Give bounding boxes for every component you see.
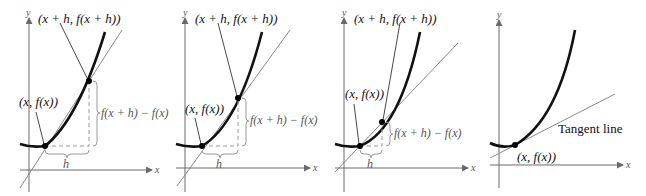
function-curve [176,32,262,147]
lower-point-leader [195,118,201,144]
panel-3: y x (x + h, f(x + h)) (x, f(x)) f(x + h)… [335,7,476,192]
x-axis-label: x [154,164,160,175]
point-label: (x, f(x)) [517,149,556,164]
point-x-plus-h [86,78,92,84]
rise-label: f(x + h) − f(x) [394,126,462,140]
run-label: h [63,157,69,171]
point-x [199,143,205,149]
run-label: h [367,157,373,171]
tangent-line-label: Tangent line [558,121,623,136]
upper-point-label: (x + h, f(x + h)) [354,11,437,26]
point-x-plus-h [379,119,385,125]
upper-point-leader [218,23,237,96]
function-curve [20,32,105,147]
y-axis-label: y [341,7,347,18]
x-axis-label: x [312,162,318,173]
point-x [42,143,48,149]
panel-2: y x (x + h, f(x + h)) (x, f(x)) f(x + h)… [176,7,318,192]
lower-point-label: (x, f(x)) [345,86,384,101]
rise-brace [386,122,393,146]
rise-brace [242,98,249,146]
upper-point-label: (x + h, f(x + h)) [195,11,278,26]
upper-point-label: (x + h, f(x + h)) [38,11,121,26]
y-axis-label: y [182,7,188,18]
y-axis-label: y [496,9,502,20]
run-label: h [216,157,222,171]
rise-brace [93,81,100,146]
point-x [512,142,518,148]
panel-4: y x Tangent line (x, f(x)) [490,9,631,188]
secant-to-tangent-figure: y x (x + h, f(x + h)) (x, f(x)) f(x + h)… [0,0,646,196]
lower-point-leader [354,104,359,144]
lower-point-leader [36,112,44,144]
x-axis-label: x [470,162,476,173]
point-x-plus-h [235,95,241,101]
upper-point-leader [60,23,88,80]
x-axis-label: x [625,159,631,170]
rise-label: f(x + h) − f(x) [250,113,318,127]
point-x [357,143,363,149]
lower-point-label: (x, f(x)) [185,101,224,116]
y-axis-label: y [25,7,31,18]
panel-1: y x (x + h, f(x + h)) (x, f(x)) f(x + h)… [19,7,169,192]
rise-label: f(x + h) − f(x) [101,106,169,120]
lower-point-label: (x, f(x)) [19,94,58,109]
